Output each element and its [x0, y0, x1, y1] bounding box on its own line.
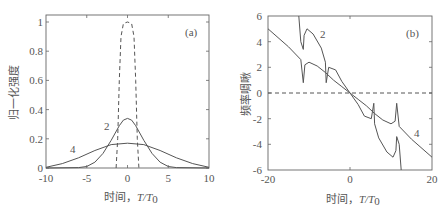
- ytick-label: 0.4: [29, 104, 43, 116]
- xtick-label: 20: [427, 173, 439, 185]
- xtick-label: -5: [82, 172, 92, 184]
- xtick-label: -20: [261, 173, 276, 185]
- panel-a-ylabel: 归一化强度: [7, 65, 21, 120]
- xtick-label: 10: [204, 172, 216, 184]
- panel-b-ylabel: 频率啁啾: [239, 72, 253, 116]
- xlabel-text: 时间，: [326, 193, 359, 206]
- xtick-label: -10: [39, 172, 54, 184]
- figure: 0 0.2 0.4 0.6 0.8 1 -10 -5 0 5 10 2 4 (a…: [0, 0, 441, 209]
- curve-label-2: 2: [104, 120, 110, 132]
- xlabel-sub: 0: [374, 195, 380, 207]
- xtick-label: 0: [347, 173, 353, 185]
- ytick-label: 4: [257, 36, 263, 48]
- panel-a-xlabel: 时间，T/T0: [104, 191, 158, 205]
- xtick-label: 5: [166, 172, 172, 184]
- xtick-label: 0: [125, 172, 131, 184]
- ytick-label: 6: [257, 10, 263, 22]
- panel-b: -6 -4 -2 0 2 4 6 -20 0 20 2 4 (b) 频率啁啾 时…: [239, 10, 438, 207]
- panel-a-xtick-labels: -10 -5 0 5 10: [39, 172, 215, 184]
- ytick-label: 1: [38, 16, 44, 28]
- ytick-label: 0.2: [29, 133, 43, 145]
- ytick-label: -4: [253, 138, 263, 150]
- curve-label-2: 2: [320, 28, 326, 40]
- panel-b-ytick-labels: -6 -4 -2 0 2 4 6: [253, 10, 263, 176]
- xlabel-sub: 0: [152, 193, 158, 205]
- curve-label-4: 4: [70, 143, 76, 155]
- xlabel-var: T/T: [137, 191, 153, 203]
- xlabel-text: 时间，: [104, 191, 137, 204]
- ytick-label: 0: [257, 87, 263, 99]
- ytick-label: 0.6: [29, 74, 43, 86]
- ytick-label: 2: [257, 61, 263, 73]
- panel-label-b: (b): [406, 27, 419, 40]
- ytick-label: -2: [253, 113, 262, 125]
- panel-b-xtick-labels: -20 0 20: [261, 173, 438, 185]
- xlabel-var: T/T: [359, 193, 375, 205]
- panel-b-xlabel: 时间，T/T0: [326, 193, 380, 207]
- ytick-label: 0.8: [29, 45, 43, 57]
- panel-a: 0 0.2 0.4 0.6 0.8 1 -10 -5 0 5 10 2 4 (a…: [7, 15, 215, 205]
- curve-label-4: 4: [414, 127, 420, 139]
- panel-a-ytick-labels: 0 0.2 0.4 0.6 0.8 1: [29, 16, 43, 174]
- panel-a-curve-0-dashed: [116, 22, 139, 168]
- panel-label-a: (a): [185, 26, 198, 39]
- panel-a-xticks: [87, 15, 169, 168]
